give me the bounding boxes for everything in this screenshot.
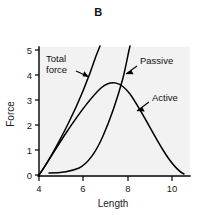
x-tick-label-10: 10 — [167, 183, 178, 194]
y-tick-label-5: 5 — [27, 45, 32, 56]
y-tick-label-4: 4 — [27, 70, 32, 81]
y-tick-label-3: 3 — [27, 95, 32, 106]
force-length-figure: B 5 4 3 2 1 0 4 6 8 — [0, 0, 197, 215]
y-tick-label-0: 0 — [27, 170, 32, 181]
force-length-chart: 5 4 3 2 1 0 4 6 8 10 Length Force Total … — [0, 0, 197, 215]
x-tick-label-6: 6 — [80, 183, 85, 194]
annotation-total-force-line1: Total — [46, 53, 66, 64]
x-tick-label-8: 8 — [125, 183, 130, 194]
annotation-total-force-line2: force — [46, 64, 67, 75]
annotation-passive-label: Passive — [140, 55, 173, 66]
x-axis-title: Length — [98, 198, 129, 209]
x-tick-label-4: 4 — [36, 183, 41, 194]
y-tick-label-2: 2 — [27, 120, 32, 131]
y-axis-title: Force — [5, 101, 16, 127]
annotation-active-label: Active — [152, 92, 178, 103]
y-tick-label-1: 1 — [27, 145, 32, 156]
